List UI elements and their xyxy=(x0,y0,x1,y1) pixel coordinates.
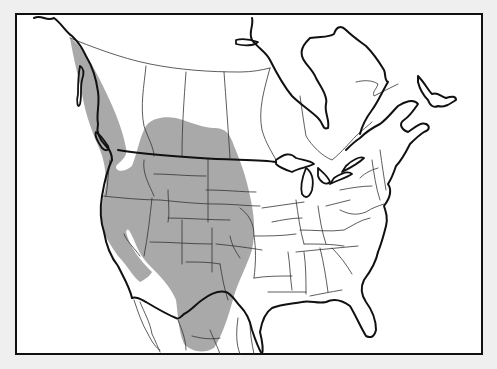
map-figure xyxy=(0,0,497,369)
north-america-range-map xyxy=(0,0,497,369)
